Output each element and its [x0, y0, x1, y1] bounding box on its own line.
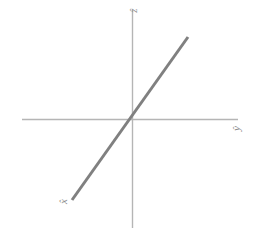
axis-label-z: ẑ [128, 8, 139, 12]
axis-label-y: ŷ [231, 126, 242, 131]
plot-canvas [0, 0, 253, 237]
axis-label-x: x̂ [58, 199, 69, 204]
x-axis-direction-line [72, 37, 188, 200]
vector-diagram-figure: ẑ ŷ x̂ [0, 0, 253, 237]
